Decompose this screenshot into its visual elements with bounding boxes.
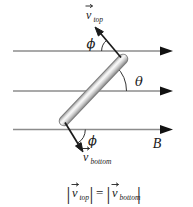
v-top-subscript: top	[94, 15, 104, 24]
v-bottom-symbol: v	[83, 150, 89, 164]
eq-equals-sign: =	[96, 185, 103, 200]
eq-rhs-symbol: v	[112, 186, 118, 200]
eq-right-bar-2: |	[137, 183, 141, 204]
theta-label: θ	[135, 74, 143, 89]
eq-lhs-symbol: v	[72, 186, 78, 200]
v-bottom-label: v bottom	[83, 147, 112, 166]
field-b-label: B	[153, 136, 162, 151]
v-top-symbol: v	[86, 8, 92, 22]
field-line-bottom-arrowhead-icon	[160, 125, 173, 134]
eq-lhs-subscript: top	[80, 193, 90, 202]
v-top-arrow-shaft	[101, 34, 121, 58]
v-bottom-subscript: bottom	[91, 157, 112, 166]
v-top-label: v top	[86, 4, 104, 24]
field-line-top-arrowhead-icon	[160, 47, 173, 56]
eq-left-bar-2: |	[90, 183, 94, 204]
phi-bottom-arc	[78, 130, 86, 144]
v-bottom-arrowhead-icon	[76, 143, 84, 152]
v-bottom-arrow-shaft	[65, 123, 78, 145]
eq-left-bar-1: |	[67, 183, 71, 204]
diagram-canvas: v top ϕ θ ϕ B v bottom | v top | = | v b…	[0, 0, 193, 207]
magnitude-equation: | v top | = | v bottom |	[67, 183, 141, 204]
phi-top-arc	[102, 40, 107, 51]
physics-field-rod-figure: v top ϕ θ ϕ B v bottom | v top | = | v b…	[0, 0, 193, 207]
eq-right-bar-1: |	[107, 183, 111, 204]
rod-body	[64, 59, 123, 121]
conducting-rod	[64, 59, 123, 121]
field-line-middle-arrowhead-icon	[160, 87, 173, 96]
phi-top-label: ϕ	[87, 36, 96, 51]
phi-bottom-label: ϕ	[88, 133, 97, 148]
